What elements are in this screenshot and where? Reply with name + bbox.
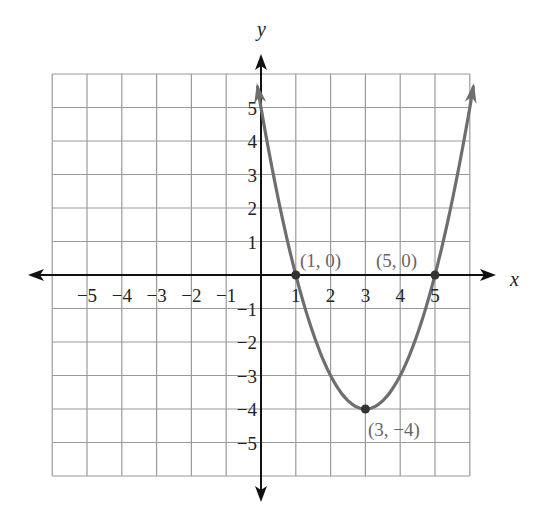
- x-axis-label: x: [509, 268, 519, 290]
- point-label-1-0: (1, 0): [300, 250, 341, 272]
- data-point: [291, 271, 300, 280]
- y-tick-label: 3: [248, 165, 258, 186]
- y-axis-label: y: [255, 18, 266, 41]
- x-tick-label: 1: [291, 285, 301, 306]
- y-tick-label: 4: [248, 131, 258, 152]
- x-tick-label: 3: [361, 285, 371, 306]
- y-tick-label: 2: [248, 198, 258, 219]
- data-point: [361, 405, 370, 414]
- y-tick-label: 1: [248, 232, 258, 253]
- y-tick-label: −4: [237, 399, 258, 420]
- x-tick-label: −4: [112, 285, 133, 306]
- x-tick-label: 5: [430, 285, 440, 306]
- y-tick-label: −1: [237, 299, 257, 320]
- x-tick-label: 4: [395, 285, 405, 306]
- data-point: [431, 271, 440, 280]
- x-tick-label: −3: [146, 285, 166, 306]
- x-tick-label: −1: [216, 285, 236, 306]
- point-label-vertex: (3, −4): [368, 419, 420, 441]
- y-tick-label: −5: [237, 433, 257, 454]
- x-tick-label: 2: [326, 285, 336, 306]
- point-label-5-0: (5, 0): [376, 250, 417, 272]
- graph: −5−4−3−2−11234554321−1−2−3−4−5 x y (1, 0…: [0, 0, 543, 519]
- x-tick-label: −2: [181, 285, 201, 306]
- y-tick-label: −2: [237, 332, 257, 353]
- x-tick-label: −5: [77, 285, 97, 306]
- y-tick-label: 5: [248, 98, 258, 119]
- y-tick-label: −3: [237, 366, 257, 387]
